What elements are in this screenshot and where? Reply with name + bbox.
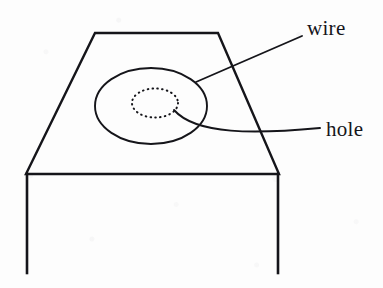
hole-label: hole <box>326 119 363 140</box>
table-group <box>26 33 279 273</box>
diagram-canvas <box>0 0 383 288</box>
wire-label: wire <box>307 18 346 39</box>
figure-root: wire hole <box>0 0 383 288</box>
table-top-surface <box>26 33 279 174</box>
